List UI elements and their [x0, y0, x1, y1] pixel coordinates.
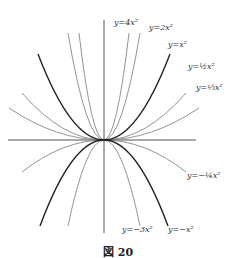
label-m3: y=−3x² — [121, 225, 153, 234]
label-mx2: y=−x² — [167, 225, 194, 234]
label-4x2: y=4x² — [113, 18, 138, 27]
label-x2: y=x² — [167, 40, 187, 49]
label-half: y=½x² — [187, 62, 215, 71]
label-mquarter: y=−¼x² — [186, 171, 220, 180]
figure-caption: 図 20 — [103, 243, 133, 258]
parabola-family-plot: y=4x² y=2x² y=x² y=½x² y=⅓x² y=−¼x² y=−3… — [0, 0, 241, 258]
label-2x2: y=2x² — [148, 23, 173, 32]
label-third: y=⅓x² — [195, 83, 223, 92]
